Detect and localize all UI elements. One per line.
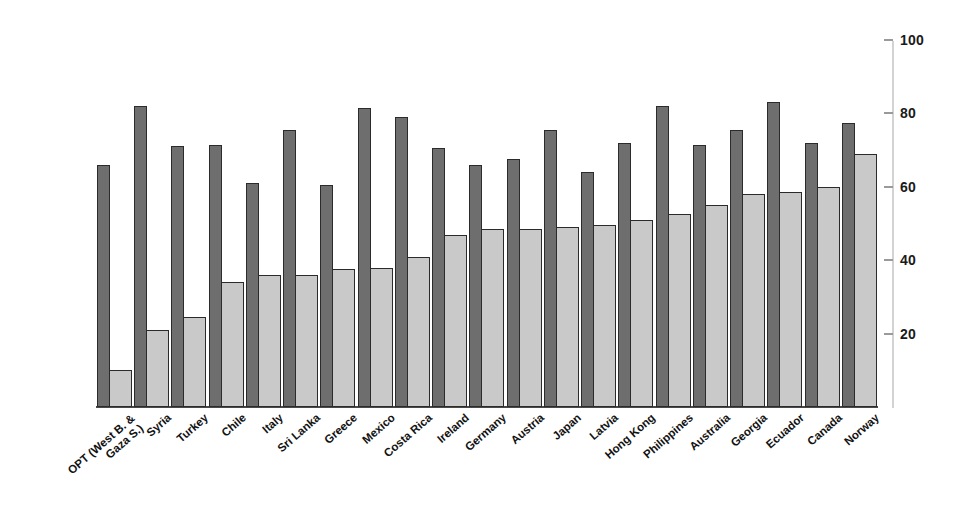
bar-dark (246, 183, 259, 407)
bar-dark (656, 106, 669, 407)
x-axis-category-label: Norway (842, 412, 881, 448)
bar-dark (358, 108, 371, 407)
bar-group (395, 40, 430, 407)
y-axis-line (892, 41, 894, 408)
bar-light (518, 229, 542, 407)
bar-dark (134, 106, 147, 407)
bar-group (581, 40, 616, 407)
bar-dark (507, 159, 520, 407)
bar-light (741, 194, 765, 407)
bar-group (432, 40, 467, 407)
bar-group (171, 40, 206, 407)
bar-light (592, 225, 616, 407)
y-axis-tick (884, 39, 893, 41)
bar-group (134, 40, 169, 407)
y-axis-tick (884, 112, 893, 114)
bar-group (283, 40, 318, 407)
bar-dark (469, 165, 482, 407)
x-axis-category-label: OPT (West B. & Gaza S.) (65, 412, 145, 486)
bar-light (331, 269, 355, 407)
x-axis-category-label: Chile (219, 412, 248, 439)
bar-group (656, 40, 691, 407)
bar-light (704, 205, 728, 407)
bar-group (618, 40, 653, 407)
bar-light (443, 235, 467, 407)
x-axis-category-label: Austria (509, 412, 546, 447)
y-axis-tick (884, 186, 893, 188)
x-axis-category-label: Greece (323, 412, 360, 446)
bar-group (693, 40, 728, 407)
bar-light (406, 257, 430, 407)
bar-dark (171, 146, 184, 407)
bar-group (842, 40, 877, 407)
bar-light (108, 370, 132, 407)
bar-group (507, 40, 542, 407)
bar-dark (581, 172, 594, 407)
plot-area (96, 40, 878, 407)
y-axis-tick-label: 80 (900, 106, 916, 120)
y-axis-tick (884, 333, 893, 335)
x-axis-category-label: Japan (551, 412, 584, 442)
bar-group (209, 40, 244, 407)
y-axis-tick-label: 20 (900, 327, 916, 341)
bar-group (544, 40, 579, 407)
x-axis-category-label: Australia (688, 412, 733, 453)
bar-light (853, 154, 877, 407)
x-axis-category-label: Germany (464, 412, 509, 453)
bar-group (730, 40, 765, 407)
y-axis-tick-label: 60 (900, 180, 916, 194)
x-axis-category-label: Georgia (729, 412, 769, 449)
bar-light (294, 275, 318, 407)
bar-light (555, 227, 579, 407)
bar-group (805, 40, 840, 407)
bar-light (257, 275, 281, 407)
bar-dark (767, 102, 780, 407)
bar-light (369, 268, 393, 407)
x-axis-category-label: Canada (805, 412, 844, 448)
bar-dark (395, 117, 408, 407)
y-axis-tick-label: 40 (900, 253, 916, 267)
y-axis-tick (884, 259, 893, 261)
x-axis-category-label: Syria (145, 412, 174, 439)
bar-light (220, 282, 244, 407)
bar-group (246, 40, 281, 407)
bar-light (480, 229, 504, 407)
bar-dark (618, 143, 631, 407)
bar-dark (693, 145, 706, 407)
bar-dark (544, 130, 557, 407)
bar-group (358, 40, 393, 407)
bar-dark (320, 185, 333, 407)
bar-group (767, 40, 802, 407)
x-axis-category-label: Latvia (588, 412, 621, 442)
x-axis-category-label: Italy (261, 412, 286, 436)
bar-dark (842, 123, 855, 407)
bar-light (145, 330, 169, 407)
bar-light (629, 220, 653, 407)
bar-chart: 20406080100 OPT (West B. & Gaza S.)Syria… (0, 0, 971, 521)
bar-dark (97, 165, 110, 407)
bar-light (182, 317, 206, 407)
bar-dark (209, 145, 222, 407)
bar-light (816, 187, 840, 407)
bar-dark (432, 148, 445, 407)
bar-light (778, 192, 802, 407)
bar-dark (805, 143, 818, 407)
x-axis-category-label: Turkey (176, 412, 211, 445)
x-axis-category-label: Ecuador (765, 412, 807, 451)
y-axis-tick-label: 100 (900, 33, 924, 47)
bar-dark (283, 130, 296, 407)
bar-dark (730, 130, 743, 407)
bar-group (97, 40, 132, 407)
bar-group (320, 40, 355, 407)
bar-light (667, 214, 691, 407)
bar-group (469, 40, 504, 407)
